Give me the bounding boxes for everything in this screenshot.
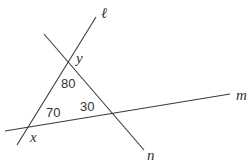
angle-80-label: 80 [61,76,75,91]
line-l-label: ℓ [101,5,107,21]
line-n-label: n [147,147,155,163]
line-m-label: m [236,87,247,103]
angle-y-label: y [74,50,83,66]
geometry-diagram: ℓ m n y x 80 70 30 [0,0,251,163]
angle-x-label: x [29,129,37,145]
line-n [44,34,144,150]
line-m [5,94,230,131]
angle-70-label: 70 [46,105,60,120]
angle-30-label: 30 [80,99,94,114]
